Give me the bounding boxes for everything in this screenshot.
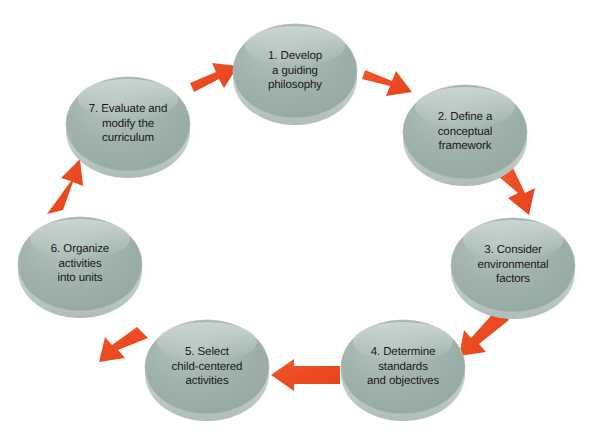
- arrow-7-to-1: [190, 63, 238, 92]
- arrow-6-to-7: [47, 159, 83, 214]
- arrow-4-to-5: [271, 359, 340, 391]
- node-5[interactable]: [145, 320, 269, 421]
- node-1[interactable]: [233, 24, 357, 125]
- node-3[interactable]: [451, 218, 575, 319]
- node-4-highlight: [353, 322, 453, 362]
- node-4[interactable]: [341, 320, 465, 421]
- arrow-5-to-6: [99, 327, 148, 362]
- node-7-highlight: [78, 79, 178, 119]
- node-3-highlight: [463, 220, 563, 260]
- node-5-highlight: [157, 322, 257, 362]
- node-2[interactable]: [403, 85, 527, 186]
- node-6[interactable]: [18, 217, 142, 318]
- arrow-1-to-2: [362, 70, 412, 96]
- node-7[interactable]: [66, 77, 190, 178]
- node-2-highlight: [415, 87, 515, 127]
- node-6-highlight: [30, 219, 130, 259]
- node-1-highlight: [245, 26, 345, 66]
- diagram-canvas: 1. Develop a guiding philosophy 2. Defin…: [0, 0, 592, 434]
- cycle-diagram: [0, 0, 592, 434]
